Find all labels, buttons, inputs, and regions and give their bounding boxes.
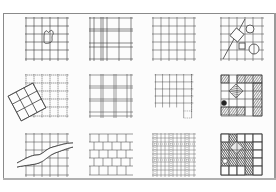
panel-dense-overlapping-grid <box>152 133 196 177</box>
panel-filled-grid-frame <box>220 74 264 118</box>
regular-grid-drawing <box>152 17 196 61</box>
panel-grid-with-overlay-shapes <box>220 17 264 61</box>
panel-grid-with-river <box>25 133 69 177</box>
panel-regular-grid <box>152 17 196 61</box>
frame-edge-bottom <box>3 178 276 180</box>
extended-grid-drawing <box>152 74 196 118</box>
grid-overlay-shapes-drawing <box>220 17 264 61</box>
panel-tartan-grid <box>89 17 133 61</box>
tartan-grid-drawing <box>89 17 133 61</box>
panel-dark-filled-grid <box>220 133 264 177</box>
grid-irregular-shape-drawing <box>25 17 69 61</box>
rotated-grid-overlap-drawing <box>25 74 69 118</box>
frame-edge-right <box>274 13 276 179</box>
double-line-grid-drawing <box>89 74 133 118</box>
staggered-grid-drawing <box>89 133 133 177</box>
panel-double-line-grid <box>89 74 133 118</box>
dense-grid-drawing <box>152 133 196 177</box>
dark-filled-grid-drawing <box>220 133 264 177</box>
panel-staggered-grid <box>89 133 133 177</box>
panel-rotated-grid-overlap <box>25 74 69 118</box>
filled-grid-frame-drawing <box>220 74 264 118</box>
panel-grid-with-irregular-shape <box>25 17 69 61</box>
grid-river-drawing <box>25 133 69 177</box>
panel-extended-grid <box>152 74 196 118</box>
